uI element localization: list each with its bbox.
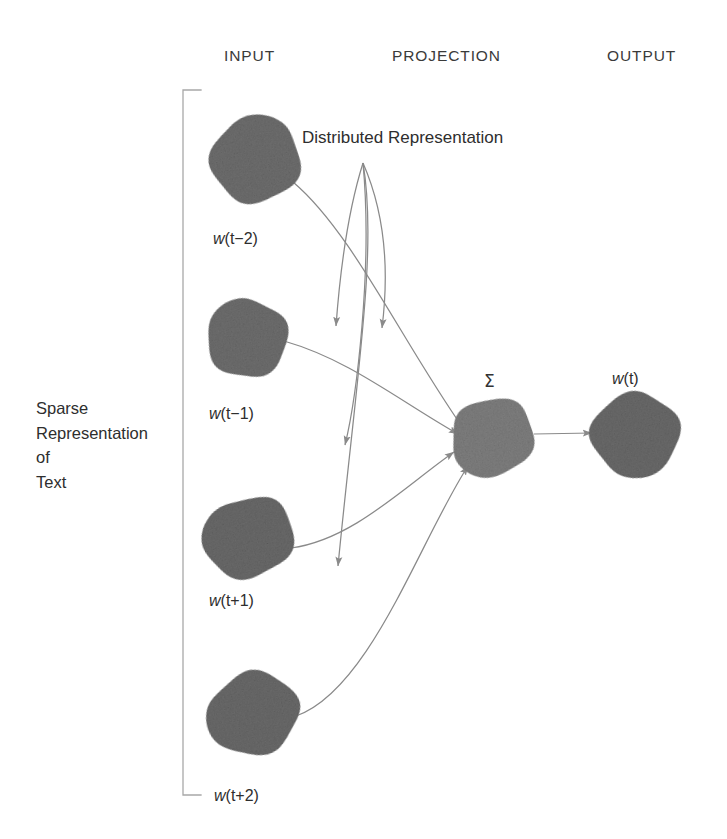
sparse-line-2: Representation [36,421,176,446]
node-blob-w-t [580,380,692,489]
node-w-t [580,380,692,489]
node-blob-w-t-minus-2 [198,104,309,213]
node-label-w-t-minus-2: w(t−2) [213,230,258,248]
node-w-t-minus-2 [198,104,309,213]
sparse-representation-bracket [183,90,201,795]
node-blob-w-t-minus-1 [194,284,303,392]
conn-w-t-plus-2-to-sum [296,466,468,716]
column-header-output: OUTPUT [607,47,676,65]
sparse-representation-of-text-label: Sparse Representation of Text [36,396,176,494]
sparse-line-1: Sparse [36,396,176,421]
node-label-w-t-minus-1: w(t−1) [209,405,254,423]
diagram-canvas: INPUT PROJECTION OUTPUT Distributed Repr… [0,0,727,839]
sigma-symbol: Σ [484,371,495,391]
node-blob-w-t-plus-2 [196,660,310,767]
node-w-t-plus-2 [196,660,310,767]
column-header-input: INPUT [224,47,275,65]
node-sum-node [440,388,543,488]
conn-callout-a [336,163,363,326]
conn-w-t-plus-1-to-sum [291,452,454,548]
node-blob-sum-node [440,388,543,488]
node-group [192,104,692,766]
node-w-t-minus-1 [194,284,303,392]
node-label-w-t-plus-2: w(t+2) [214,787,259,805]
conn-sum-to-out [534,433,592,434]
sparse-line-3: of [36,445,176,470]
column-header-projection: PROJECTION [392,47,501,65]
sparse-line-4: Text [36,470,176,495]
node-blob-w-t-plus-1 [192,486,303,590]
conn-w-t-minus-1-to-sum [284,341,458,434]
node-label-w-t: w(t) [612,370,639,388]
node-w-t-plus-1 [192,486,303,590]
distributed-representation-label: Distributed Representation [302,128,503,148]
node-label-w-t-plus-1: w(t+1) [209,592,254,610]
connector-group [284,163,592,716]
conn-w-t-minus-2-to-sum [293,182,463,428]
